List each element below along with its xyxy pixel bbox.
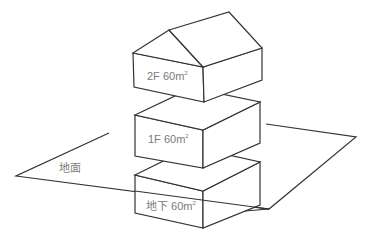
floor-label-2f: 2F 60m2 <box>147 70 188 82</box>
building-diagram: 2F 60m2 1F 60m2 地下 60m2 地面 <box>0 0 367 237</box>
second-floor-box <box>133 12 262 102</box>
floor-label-1f: 1F 60m2 <box>148 133 189 145</box>
floor-label-basement: 地下 60m2 <box>146 200 196 212</box>
ground-label: 地面 <box>59 162 81 174</box>
